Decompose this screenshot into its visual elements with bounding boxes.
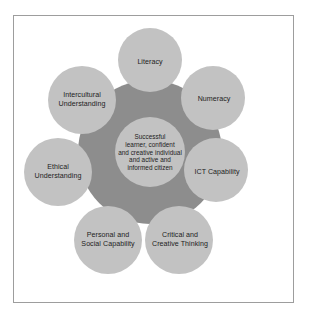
petal-label-literacy: Literacy bbox=[119, 58, 181, 67]
petal-label-intercultural-understanding: Intercultural Understanding bbox=[48, 91, 116, 108]
petal-label-personal-social-capability: Personal and Social Capability bbox=[74, 231, 142, 248]
petal-label-numeracy: Numeracy bbox=[184, 95, 244, 104]
figure-root: Literacy Numeracy ICT Capability Critica… bbox=[0, 0, 309, 317]
center-label: Successful learner, confident and creati… bbox=[114, 133, 186, 172]
petal-label-ict-capability: ICT Capability bbox=[186, 168, 248, 177]
petal-label-ethical-understanding: Ethical Understanding bbox=[25, 163, 91, 180]
petal-label-critical-creative-thinking: Critical and Creative Thinking bbox=[147, 231, 213, 248]
